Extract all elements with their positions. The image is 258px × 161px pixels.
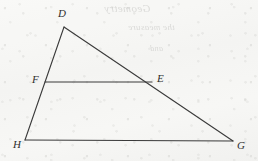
vertex-label-F: F [32,74,39,85]
segment-HG [25,140,233,141]
segments-group [25,27,233,141]
segment-DG [64,27,233,141]
vertex-label-G: G [237,140,245,151]
vertex-label-H: H [13,139,21,150]
vertex-label-E: E [157,73,164,84]
vertex-label-D: D [58,8,66,19]
segment-DH [25,27,64,140]
geometry-figure: Geometry the measure and D F E H G [0,0,258,161]
